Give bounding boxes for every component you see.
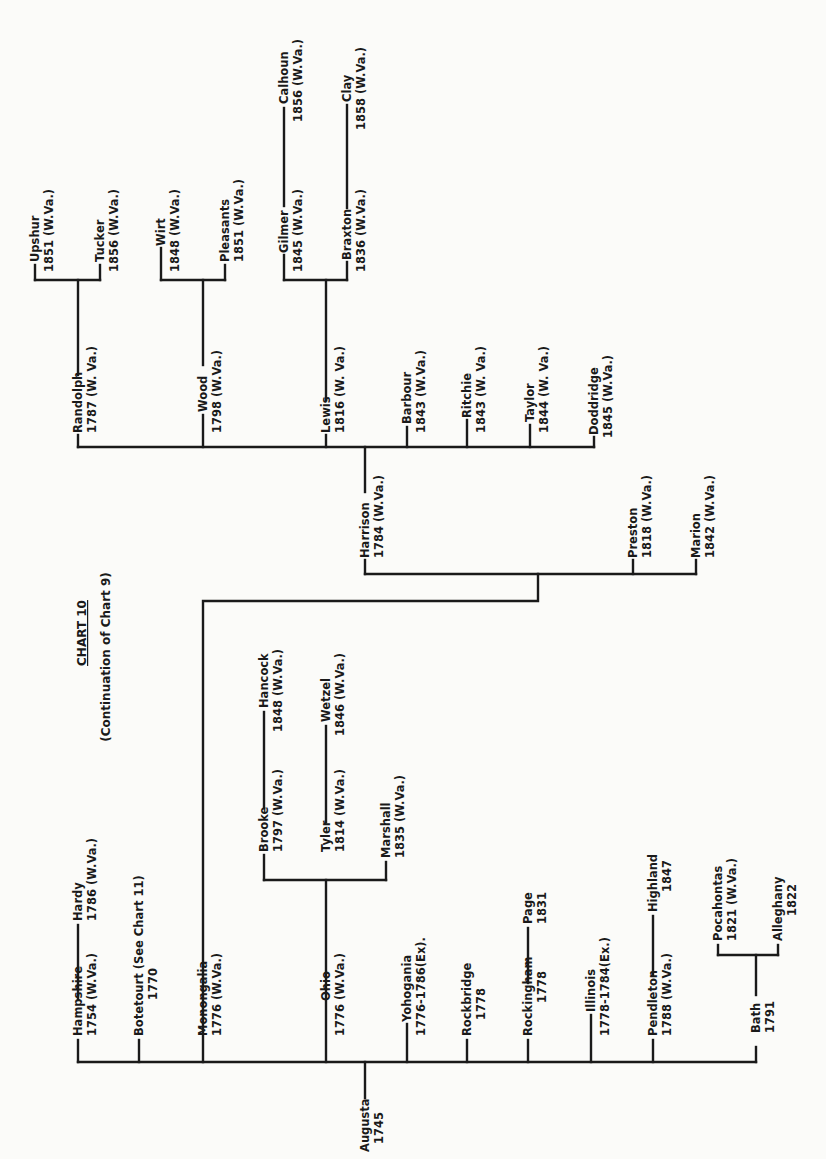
node-name: Lewis (319, 396, 333, 433)
node-year: 1787 (W. Va.) (85, 346, 99, 433)
node-ohio: Ohio 1776 (W.Va.) (319, 953, 347, 1036)
node-year: 1754 (W.Va.) (85, 953, 99, 1036)
node-year: 1776 (W.Va.) (210, 953, 224, 1036)
node-name: Preston (626, 508, 640, 558)
node-name: Brooke (257, 806, 271, 852)
node-year: 1858 (W.Va.) (354, 47, 368, 130)
node-name: Augusta (358, 1098, 372, 1152)
node-year: 1776 (W.Va.) (333, 953, 347, 1036)
node-gilmer: Gilmer 1845 (W.Va.) (277, 189, 305, 272)
node-hancock: Hancock 1848 (W.Va.) (257, 649, 285, 732)
node-name: Highland (646, 854, 660, 912)
node-yohogania: Yohogania 1776-1786(Ex). (400, 937, 428, 1036)
node-year: 1851 (W.Va.) (232, 179, 246, 262)
node-year: 1778 (474, 988, 488, 1020)
node-pocahontas: Pocahontas 1821 (W.Va.) (711, 858, 739, 941)
node-name: Wetzel (319, 678, 333, 722)
node-year: 1821 (W.Va.) (725, 858, 739, 941)
node-pleasants: Pleasants 1851 (W.Va.) (218, 179, 246, 262)
node-rockbridge: Rockbridge 1778 (460, 962, 488, 1036)
node-lewis: Lewis 1816 (W. Va.) (319, 346, 347, 433)
node-tucker: Tucker 1856 (W.Va.) (93, 189, 121, 272)
node-name: Pleasants (218, 199, 232, 262)
node-illinois: Illinois 1778-1784(Ex.) (584, 937, 612, 1036)
node-year: 1843 (W. Va.) (474, 346, 488, 433)
chart-title: CHART 10 (Continuation of Chart 9) (75, 572, 113, 742)
node-name: Taylor (523, 383, 537, 422)
node-year: 1846 (W.Va.) (333, 653, 347, 736)
node-name: Monongalia (196, 961, 210, 1036)
node-rockingham: Rockingham 1778 (521, 956, 549, 1036)
node-wetzel: Wetzel 1846 (W.Va.) (319, 653, 347, 736)
node-harrison: Harrison 1784 (W.Va.) (358, 475, 386, 558)
node-name: Wood (196, 376, 210, 412)
node-name: Pocahontas (711, 866, 725, 941)
node-brooke: Brooke 1797 (W.Va.) (257, 769, 285, 852)
node-year: 1788 (W.Va.) (660, 953, 674, 1036)
node-preston: Preston 1818 (W.Va.) (626, 475, 654, 558)
node-hardy: Hardy 1786 (W.Va.) (71, 838, 99, 921)
node-year: 1847 (660, 860, 674, 892)
node-page: Page 1831 (521, 892, 549, 924)
node-name: Page (521, 892, 535, 924)
node-name: Clay (340, 74, 354, 102)
node-braxton: Braxton 1836 (W.Va.) (340, 189, 368, 272)
node-name: Calhoun (277, 51, 291, 104)
node-year: 1745 (372, 1112, 386, 1144)
node-year: 1816 (W. Va.) (333, 346, 347, 433)
node-name: Bath (749, 1003, 763, 1033)
node-year: 1836 (W.Va.) (354, 189, 368, 272)
connector-lines (35, 105, 778, 1098)
node-year: 1845 (W.Va.) (291, 189, 305, 272)
node-doddridge: Doddridge 1845 (W.Va.) (587, 355, 615, 438)
node-name: Hancock (257, 653, 271, 708)
chart-subheading: (Continuation of Chart 9) (99, 572, 113, 742)
node-year: 1814 (W.Va.) (333, 769, 347, 852)
node-name: Tyler (319, 820, 333, 852)
node-year: 1831 (535, 892, 549, 924)
node-year: 1848 (W.Va.) (168, 189, 182, 272)
node-year: 1822 (785, 884, 799, 916)
node-wirt: Wirt 1848 (W.Va.) (154, 189, 182, 272)
node-name: Braxton (340, 209, 354, 260)
chart-heading: CHART 10 (75, 600, 89, 666)
node-augusta: Augusta 1745 (358, 1098, 386, 1152)
node-alleghany: Alleghany 1822 (771, 876, 799, 941)
node-name: Rockbridge (460, 962, 474, 1036)
node-name: Pendleton (646, 970, 660, 1036)
node-year: 1778-1784(Ex.) (598, 937, 612, 1036)
node-highland: Highland 1847 (646, 854, 674, 912)
node-year: 1835 (W.Va.) (393, 775, 407, 858)
node-name: Wirt (154, 218, 168, 246)
node-bath: Bath 1791 (749, 1001, 777, 1033)
node-year: 1845 (W.Va.) (601, 355, 615, 438)
node-year: 1818 (W.Va.) (640, 475, 654, 558)
node-ritchie: Ritchie 1843 (W. Va.) (460, 346, 488, 433)
node-name: Harrison (358, 502, 372, 558)
node-year: 1778 (535, 971, 549, 1003)
node-year: 1776-1786(Ex). (414, 937, 428, 1036)
node-name: Marshall (379, 802, 393, 858)
node-year: 1797 (W.Va.) (271, 769, 285, 852)
node-year: 1844 (W. Va.) (537, 346, 551, 433)
node-name: Tucker (93, 219, 107, 262)
node-name: Randolph (71, 372, 85, 433)
node-year: 1856 (W.Va.) (107, 189, 121, 272)
node-year: 1843 (W.Va.) (414, 350, 428, 433)
node-year: 1786 (W.Va.) (85, 838, 99, 921)
node-name: Marion (689, 513, 703, 558)
node-monongalia: Monongalia 1776 (W.Va.) (196, 953, 224, 1036)
node-name: Ritchie (460, 373, 474, 418)
node-year: 1842 (W.Va.) (703, 475, 717, 558)
node-upshur: Upshur 1851 (W.Va.) (28, 189, 56, 272)
node-barbour: Barbour 1843 (W.Va.) (400, 350, 428, 433)
node-botetourt: Botetourt (See Chart 11) 1770 (132, 875, 160, 1036)
node-clay: Clay 1858 (W.Va.) (340, 47, 368, 130)
node-name: Doddridge (587, 367, 601, 435)
node-wood: Wood 1798 (W.Va.) (196, 350, 224, 433)
node-taylor: Taylor 1844 (W. Va.) (523, 346, 551, 433)
node-name: Ohio (319, 971, 333, 1001)
node-name: Alleghany (771, 876, 785, 941)
node-hampshire: Hampshire 1754 (W.Va.) (71, 953, 99, 1036)
node-name: Botetourt (See Chart 11) (132, 875, 146, 1036)
